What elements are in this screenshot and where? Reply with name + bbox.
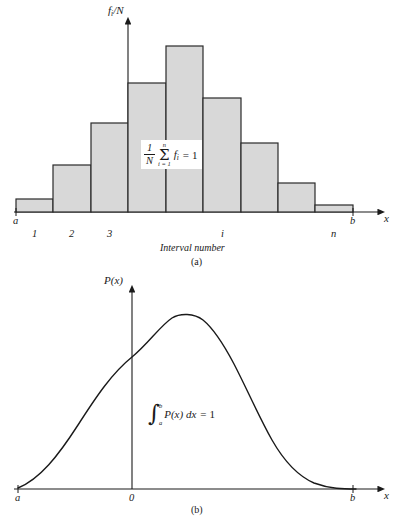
integral-upper-limit: b [159, 402, 162, 409]
formula-result: 1 [192, 149, 198, 161]
panel-a-interval-tick-3: 3 [107, 229, 112, 240]
sigma-icon: Σ [159, 149, 170, 161]
panel-a-interval-tick-1: 1 [32, 229, 37, 240]
panel-a-formula: 1 N n Σ i = 1 fi = 1 [141, 140, 202, 169]
panel-a-x-axis-label: x [384, 213, 389, 224]
panel-b-y-axis-label: P(x) [104, 275, 123, 286]
panel-b-plot [14, 292, 378, 493]
histogram-bar [53, 165, 91, 212]
density-curve [18, 314, 356, 489]
formula-fraction-denominator: N [144, 156, 155, 167]
panel-a-endpoint-a: a [13, 216, 18, 227]
integral-group: ∫ b a [148, 404, 162, 424]
panel-a-y-axis-label: fi/N [108, 5, 124, 18]
panel-a-plot [14, 24, 378, 216]
formula-fraction: 1 N [144, 143, 155, 166]
formula-equals: = [183, 149, 189, 161]
panel-b-x-axis-label: x [384, 490, 389, 501]
panel-a-interval-tick-i: i [221, 229, 224, 240]
histogram-bar [16, 199, 53, 212]
integral-lower-limit: a [159, 419, 162, 426]
formula-sigma-lower: i = 1 [158, 161, 171, 168]
histogram-bar [315, 205, 353, 212]
panel-b-endpoint-b: b [350, 493, 355, 504]
panel-a-endpoint-b: b [350, 216, 355, 227]
histogram-bar [166, 46, 203, 212]
formula-summation: n Σ i = 1 [158, 142, 171, 167]
panel-b-caption: (b) [191, 505, 203, 515]
panel-a-y-axis-label-tail: /N [113, 4, 123, 16]
formula-term: fi [174, 148, 179, 162]
integral-result: 1 [210, 408, 216, 420]
histogram-bar [203, 98, 241, 212]
formula-fraction-numerator: 1 [145, 143, 154, 154]
histogram-bar [278, 183, 315, 212]
integral-equals: = [200, 408, 206, 420]
panel-a-caption: (a) [191, 257, 202, 267]
panel-b-origin-label: 0 [129, 493, 134, 504]
panel-a-x-caption: Interval number [160, 243, 225, 253]
histogram-bar [241, 143, 278, 212]
histogram-bar [91, 123, 128, 212]
formula-term-sub: i [177, 153, 179, 162]
panel-a-interval-tick-n: n [331, 229, 336, 240]
figure-root: fi/N x a b 1 2 3 i n Interval number (a)… [0, 0, 400, 517]
panel-b-endpoint-a: a [15, 493, 20, 504]
integral-limits: b a [159, 404, 162, 424]
panel-b-formula: ∫ b a P(x) dx = 1 [148, 404, 215, 424]
panel-a-interval-tick-2: 2 [69, 229, 74, 240]
integral-integrand: P(x) dx [164, 408, 196, 420]
